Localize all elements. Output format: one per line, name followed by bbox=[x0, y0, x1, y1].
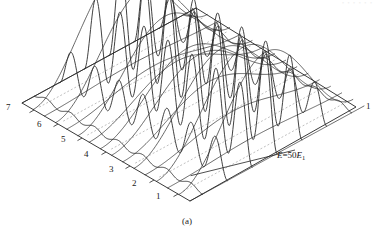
wavefunction-mesh bbox=[22, 0, 364, 201]
axis-tick-7: 7 bbox=[6, 103, 11, 112]
dashed-guide-lines bbox=[39, 18, 347, 191]
energy-annotation: E=50E1 bbox=[277, 151, 305, 160]
energy-unit-subscript: 1 bbox=[302, 154, 305, 161]
axis-tick-right-1: 1 bbox=[366, 102, 371, 111]
axis-tick-1: 1 bbox=[156, 192, 161, 201]
energy-value: 50 bbox=[288, 150, 297, 160]
figure-caption: (a) bbox=[182, 217, 192, 226]
figure-container: • • • • • • 7 6 5 4 3 2 1 1 E=50E1 (a) bbox=[0, 0, 379, 232]
axis-tick-3: 3 bbox=[109, 165, 114, 174]
base-plane-outline bbox=[22, 8, 356, 201]
axis-tick-5: 5 bbox=[61, 135, 66, 144]
surface-plot bbox=[0, 0, 379, 232]
axis-tick-4: 4 bbox=[84, 150, 89, 159]
axis-tick-6: 6 bbox=[37, 120, 42, 129]
axis-tick-2: 2 bbox=[132, 179, 137, 188]
